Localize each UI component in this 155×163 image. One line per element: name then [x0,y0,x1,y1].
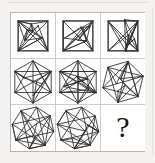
matrix-cell-r2c2[interactable] [56,59,101,105]
matrix-cell-r3c1[interactable] [11,105,56,151]
right-divider [152,8,153,156]
matrix-cell-r1c1[interactable] [11,13,56,59]
figure-hexagon [101,60,145,104]
matrix-cell-r1c2[interactable] [56,13,101,59]
puzzle-page: ? [0,0,155,163]
matrix-cell-r2c1[interactable] [11,59,56,105]
matrix-cell-r3c3[interactable]: ? [101,105,145,151]
figure-hexagon [56,60,100,104]
figure-square [56,14,100,58]
figure-hexagon [11,60,55,104]
top-divider [8,2,147,3]
matrix-cell-r2c3[interactable] [101,59,145,105]
matrix-cell-r1c3[interactable] [101,13,145,59]
matrix-grid: ? [10,12,145,152]
figure-square [101,14,145,58]
matrix-cell-r3c2[interactable] [56,105,101,151]
missing-tile-question-mark: ? [116,112,129,142]
figure-octagon [11,106,55,150]
figure-square [11,14,55,58]
figure-octagon [56,106,100,150]
